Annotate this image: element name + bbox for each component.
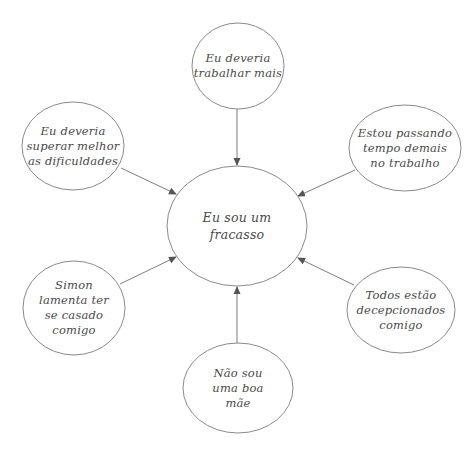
node-label-bottom-left: Simonlamenta terse casadocomigo [39, 278, 109, 338]
node-label-line: no trabalho [358, 156, 452, 171]
node-label-line: Eu deveria [194, 51, 282, 66]
node-label-line: fracasso [203, 226, 272, 243]
node-label-line: Estou passando [358, 126, 452, 141]
node-label-line: decepcionados [357, 303, 446, 318]
node-label-line: comigo [39, 323, 109, 338]
node-label-top-left: Eu deveriasuperar melhoras dificuldades [27, 124, 120, 169]
node-label-line: as dificuldades [27, 154, 120, 169]
node-label-line: trabalhar mais [194, 66, 282, 81]
node-label-bottom: Não souuma boamãe [212, 366, 263, 411]
node-label-line: lamenta ter [39, 293, 109, 308]
node-label-line: mãe [212, 396, 263, 411]
node-label-line: superar melhor [27, 139, 120, 154]
arrow-bottom-left-to-center [120, 257, 176, 284]
arrow-bottom-right-to-center [298, 258, 354, 285]
node-label-line: comigo [357, 318, 446, 333]
node-label-line: Eu deveria [27, 124, 120, 139]
node-label-center: Eu sou umfracasso [203, 209, 272, 243]
node-label-line: Todos estão [357, 288, 446, 303]
arrow-top-right-to-center [298, 170, 355, 196]
node-label-top-right: Estou passandotempo demaisno trabalho [358, 126, 452, 171]
node-label-line: se casado [39, 308, 109, 323]
node-label-line: uma boa [212, 381, 263, 396]
node-label-bottom-right: Todos estãodecepcionadoscomigo [357, 288, 446, 333]
node-label-line: Não sou [212, 366, 263, 381]
node-label-line: Eu sou um [203, 209, 272, 226]
arrow-top-left-to-center [121, 168, 176, 194]
node-label-line: Simon [39, 278, 109, 293]
node-label-line: tempo demais [358, 141, 452, 156]
node-label-top: Eu deveriatrabalhar mais [194, 51, 282, 81]
